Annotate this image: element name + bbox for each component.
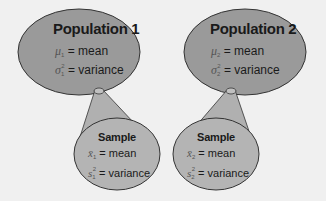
variance-label: = variance — [68, 63, 124, 77]
variance-label: = variance — [99, 167, 150, 179]
cone-apex-1 — [94, 88, 104, 94]
variance-subscript: 2 — [217, 71, 220, 77]
variance-subscript: 1 — [61, 71, 64, 77]
mean-label: = mean — [68, 44, 108, 58]
population-1-title: Population 1 — [53, 20, 139, 37]
variance-subscript: 1 — [92, 174, 95, 180]
variance-label: = variance — [198, 167, 249, 179]
mean-label: = mean — [99, 147, 136, 159]
variance-superscript: 2 — [192, 166, 195, 172]
variance-superscript: 2 — [217, 63, 220, 69]
population-1-mean: μ1 = mean — [55, 44, 108, 59]
sample-2-variance: s22 = variance — [187, 166, 249, 180]
population-2-mean: μ2 = mean — [211, 44, 264, 59]
sample-1-mean: x̄1 = mean — [88, 147, 136, 160]
sample-1-variance: s12 = variance — [88, 166, 150, 180]
variance-superscript: 2 — [93, 166, 96, 172]
sample-1-title: Sample — [98, 131, 136, 143]
mean-label: = mean — [198, 147, 235, 159]
mean-subscript: 2 — [217, 52, 220, 58]
variance-subscript: 2 — [191, 174, 194, 180]
population-2-variance: σ22 = variance — [211, 63, 280, 78]
mean-subscript: 2 — [192, 154, 195, 160]
sample-2-mean: x̄2 = mean — [187, 147, 235, 160]
mean-subscript: 1 — [93, 154, 96, 160]
mean-label: = mean — [224, 44, 264, 58]
population-1-variance: σ12 = variance — [55, 63, 124, 78]
population-2-title: Population 2 — [210, 20, 296, 37]
variance-superscript: 2 — [61, 63, 64, 69]
sample-2-title: Sample — [197, 131, 235, 143]
cone-apex-2 — [226, 88, 236, 94]
mean-subscript: 1 — [61, 52, 64, 58]
variance-label: = variance — [224, 63, 280, 77]
